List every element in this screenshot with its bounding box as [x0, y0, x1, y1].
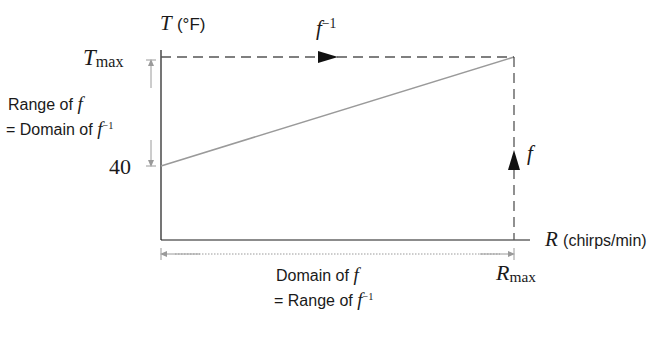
range-label-line1: Range of f — [8, 92, 114, 117]
y-axis-title: T (°F) — [160, 13, 205, 34]
tmax-sub: max — [96, 53, 124, 70]
finv-arrow-icon — [318, 51, 338, 63]
y-axis-unit: (°F) — [177, 15, 206, 34]
diagram-canvas: T (°F) Tmax 40 Range of f = Domain of f−… — [0, 0, 672, 338]
x-axis-title: R (chirps/min) — [545, 229, 647, 250]
tmax-main: T — [83, 45, 96, 70]
range-label: Range of f = Domain of f−1 — [8, 92, 114, 142]
range-label-line2: = Domain of f−1 — [6, 117, 114, 142]
f-label: f — [527, 143, 533, 164]
function-line — [161, 57, 514, 166]
y-axis-variable: T — [160, 11, 172, 35]
domain-label: Domain of f = Range of f−1 — [276, 263, 374, 313]
x-axis-unit: (chirps/min) — [563, 232, 647, 249]
finv-label: f−1 — [316, 18, 336, 39]
f-arrow-icon — [508, 150, 520, 170]
domain-label-line1: Domain of f — [276, 263, 374, 288]
tmax-label: Tmax — [83, 46, 124, 69]
domain-label-line2: = Range of f−1 — [274, 288, 374, 313]
rmax-label: Rmax — [496, 262, 536, 284]
x-axis-variable: R — [545, 227, 558, 251]
y-min-label: 40 — [109, 156, 131, 178]
